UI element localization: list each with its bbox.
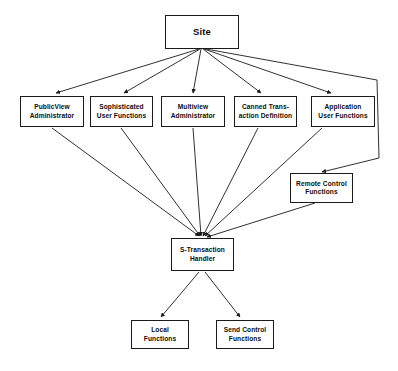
node-canned-transaction-definition[interactable]: Canned Trans- action Definition — [234, 96, 297, 127]
node-multiview-administrator[interactable]: Multiview Administrator — [161, 96, 225, 127]
edge-s-transaction-handler-to-send-control-functions — [205, 272, 240, 317]
node-sophisticated-user-functions[interactable]: Sophisticated User Functions — [90, 96, 153, 127]
node-send-control-functions-label: Send Control Functions — [222, 326, 269, 343]
edge-site-to-sophisticated-user-functions — [124, 49, 200, 93]
diagram-canvas: Site PublicView Administrator Sophistica… — [0, 0, 398, 371]
edge-sophisticated-user-functions-to-s-transaction-handler — [121, 128, 200, 236]
edge-canned-transaction-definition-to-s-transaction-handler — [203, 128, 258, 236]
node-multiview-administrator-label: Multiview Administrator — [169, 103, 218, 120]
node-site[interactable]: Site — [165, 15, 239, 49]
node-site-label: Site — [191, 26, 213, 38]
edge-site-to-canned-transaction-definition — [203, 49, 261, 93]
node-local-functions[interactable]: Local Functions — [131, 320, 189, 349]
node-application-user-functions-label: Application User Functions — [316, 103, 369, 120]
node-application-user-functions[interactable]: Application User Functions — [311, 96, 375, 127]
edge-remote-control-functions-to-s-transaction-handler — [207, 203, 315, 237]
edge-site-to-publicview-administrator — [56, 49, 199, 93]
node-publicview-administrator[interactable]: PublicView Administrator — [20, 96, 84, 127]
edge-site-to-application-user-functions — [204, 49, 331, 93]
node-remote-control-functions[interactable]: Remote Control Functions — [290, 173, 353, 203]
node-send-control-functions[interactable]: Send Control Functions — [216, 320, 274, 349]
node-publicview-administrator-label: PublicView Administrator — [28, 103, 77, 120]
edge-multiview-administrator-to-s-transaction-handler — [193, 128, 201, 236]
node-sophisticated-user-functions-label: Sophisticated User Functions — [95, 103, 148, 120]
node-s-transaction-handler-label: S-Transaction Handler — [178, 246, 227, 263]
node-canned-transaction-definition-label: Canned Trans- action Definition — [237, 103, 294, 120]
edge-s-transaction-handler-to-local-functions — [161, 272, 199, 317]
edge-publicview-administrator-to-s-transaction-handler — [52, 128, 199, 236]
edge-site-to-multiview-administrator — [193, 49, 201, 93]
node-local-functions-label: Local Functions — [142, 326, 178, 343]
node-s-transaction-handler[interactable]: S-Transaction Handler — [171, 238, 234, 271]
node-remote-control-functions-label: Remote Control Functions — [294, 180, 349, 197]
